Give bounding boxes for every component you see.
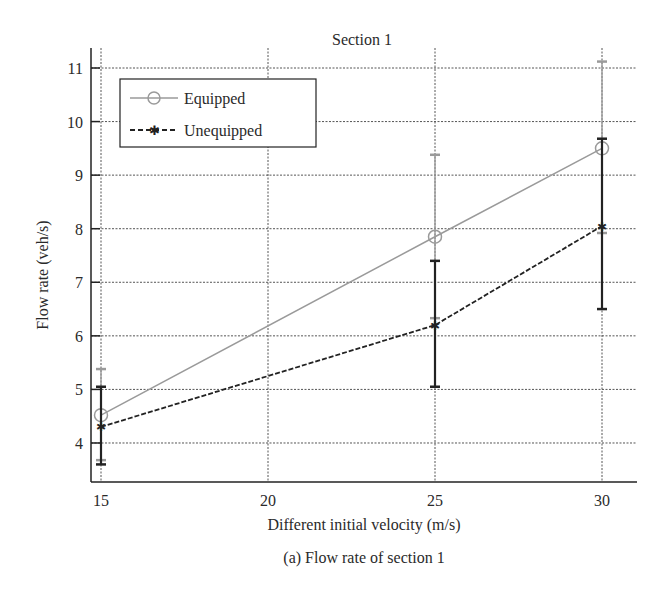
legend-star-marker-icon: ✱ (149, 123, 160, 138)
y-tick-label: 8 (75, 221, 83, 238)
x-axis-label: Different initial velocity (m/s) (268, 516, 461, 534)
series-line (101, 226, 602, 427)
x-tick-label: 15 (93, 492, 109, 509)
y-tick-label: 6 (75, 328, 83, 345)
star-marker-icon: ✱ (430, 319, 440, 333)
series-line (101, 148, 602, 415)
series-unequipped: ✱✱✱ (96, 139, 607, 465)
flow-rate-chart: 456789101115202530 ✱✱✱ Section 1 Differe… (0, 0, 671, 605)
x-tick-label: 20 (260, 492, 276, 509)
y-tick-label: 11 (68, 60, 83, 77)
y-tick-label: 5 (75, 381, 83, 398)
x-tick-label: 30 (594, 492, 610, 509)
legend-label-equipped: Equipped (184, 90, 245, 108)
figure-caption: (a) Flow rate of section 1 (283, 549, 444, 567)
y-tick-label: 7 (75, 274, 83, 291)
y-tick-label: 10 (67, 114, 83, 131)
y-tick-label: 9 (75, 167, 83, 184)
y-tick-label: 4 (75, 435, 83, 452)
x-tick-label: 25 (427, 492, 443, 509)
legend-label-unequipped: Unequipped (184, 122, 262, 140)
y-axis-label: Flow rate (veh/s) (34, 220, 52, 329)
star-marker-icon: ✱ (96, 420, 106, 434)
star-marker-icon: ✱ (597, 220, 607, 234)
legend: Equipped ✱ Unequipped (120, 79, 316, 147)
chart-title: Section 1 (332, 31, 392, 48)
